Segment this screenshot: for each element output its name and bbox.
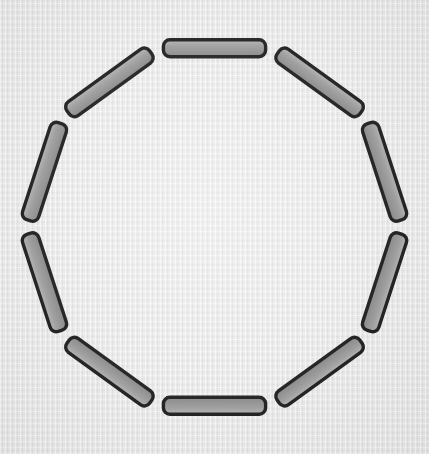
- decagon-segment-group: [21, 40, 409, 415]
- segment-bottom: [163, 397, 265, 414]
- segment-top: [163, 40, 265, 57]
- segment-upper-left: [63, 45, 156, 119]
- segment-left-upper: [21, 121, 69, 223]
- segment-lower-right: [273, 335, 366, 409]
- decagon-figure: Regular decagon outline: [0, 0, 429, 454]
- segment-upper-right: [273, 45, 366, 119]
- segment-right-upper: [361, 121, 409, 223]
- segment-right-lower: [361, 231, 409, 333]
- segment-left-lower: [21, 231, 69, 333]
- segment-lower-left: [63, 335, 156, 409]
- figure-canvas: Regular decagon outline: [0, 0, 429, 454]
